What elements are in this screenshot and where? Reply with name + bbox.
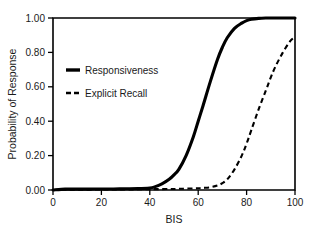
x-axis-tick-labels: 0 20 40 60 80 100 [50,197,304,208]
x-tick-label: 0 [50,197,56,208]
x-tick-label: 20 [96,197,108,208]
series-line-responsiveness [53,18,295,190]
legend-label-explicit-recall: Explicit Recall [85,88,147,99]
y-tick-label: 0.20 [26,150,46,161]
x-axis-title: BIS [166,213,183,225]
figure-container: 1.00 0.80 0.60 0.40 0.20 0.00 0 20 40 60… [0,0,317,231]
y-tick-label: 1.00 [26,13,46,24]
legend: Responsiveness Explicit Recall [66,65,158,99]
legend-label-responsiveness: Responsiveness [85,65,158,76]
y-axis-tick-labels: 1.00 0.80 0.60 0.40 0.20 0.00 [26,13,46,196]
y-tick-label: 0.80 [26,47,46,58]
x-tick-label: 100 [287,197,304,208]
y-tick-label: 0.60 [26,81,46,92]
x-tick-label: 40 [144,197,156,208]
y-tick-label: 0.40 [26,116,46,127]
plot-frame [53,18,295,190]
y-axis-title: Probability of Response [6,48,18,159]
y-tick-label: 0.00 [26,185,46,196]
x-tick-label: 80 [241,197,253,208]
series-group [53,18,295,190]
probability-of-response-chart: 1.00 0.80 0.60 0.40 0.20 0.00 0 20 40 60… [0,0,317,231]
x-tick-label: 60 [193,197,205,208]
series-line-explicit-recall [53,37,295,190]
